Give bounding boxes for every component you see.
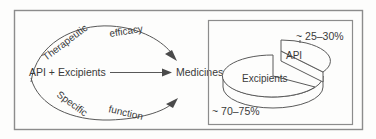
pie-slice-api — [281, 40, 330, 82]
bottom-arc-label-part1: Specific — [55, 89, 90, 118]
pie-label-api: API — [286, 50, 302, 61]
target-label: Medicines — [176, 66, 223, 78]
figure-container: API + Excipients Medicines Therapeutic e… — [0, 0, 376, 139]
top-arc-label-part2: efficacy — [109, 23, 144, 39]
concept-diagram: API + Excipients Medicines Therapeutic e… — [29, 22, 223, 122]
excipients-percent-label: ~ 70–75% — [212, 105, 260, 117]
bottom-curved-arrow — [31, 78, 178, 120]
top-arc-label-part1: Therapeutic — [41, 22, 90, 63]
arrowhead-icon — [165, 50, 177, 61]
center-arrow — [110, 69, 172, 77]
api-percent-label: ~ 25–30% — [296, 30, 344, 42]
composition-pie-panel: API Excipients ~ 25–30% ~ 70–75% — [209, 21, 353, 125]
arrow-right-icon — [162, 69, 172, 77]
figure-canvas: API + Excipients Medicines Therapeutic e… — [0, 0, 376, 139]
pie-label-excipients: Excipients — [242, 73, 288, 84]
curved-arrow-icon — [31, 78, 173, 120]
source-label: API + Excipients — [29, 66, 106, 78]
